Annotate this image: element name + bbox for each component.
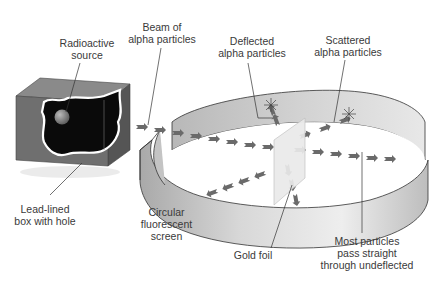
label-line: Gold foil — [218, 249, 288, 261]
label-line: Most particles — [312, 235, 422, 247]
label-line: alpha particles — [212, 47, 292, 59]
label-line: alpha particles — [122, 33, 202, 45]
label-undeflected: Most particles pass straight through und… — [312, 235, 422, 271]
label-screen: Circular fluorescent screen — [134, 206, 199, 242]
label-line: Circular — [134, 206, 199, 218]
flash-deflected-icon — [264, 98, 278, 112]
label-lead-box: Lead-lined box with hole — [10, 203, 80, 227]
label-scattered: Scattered alpha particles — [308, 34, 388, 58]
label-line: Beam of — [122, 21, 202, 33]
label-line: through undeflected — [312, 259, 422, 271]
label-line: Deflected — [212, 35, 292, 47]
label-line: Scattered — [308, 34, 388, 46]
label-line: Radioactive — [52, 37, 122, 49]
label-line: source — [52, 49, 122, 61]
label-line: box with hole — [10, 215, 80, 227]
label-line: pass straight — [312, 247, 422, 259]
label-line: Lead-lined — [10, 203, 80, 215]
label-line: fluorescent — [134, 218, 199, 230]
label-gold-foil: Gold foil — [218, 249, 288, 261]
label-line: screen — [134, 230, 199, 242]
label-deflected: Deflected alpha particles — [212, 35, 292, 59]
label-line: alpha particles — [308, 46, 388, 58]
label-radioactive-source: Radioactive source — [52, 37, 122, 61]
lead-lined-box — [16, 78, 130, 178]
flash-scattered-icon — [342, 107, 356, 121]
label-beam: Beam of alpha particles — [122, 21, 202, 45]
radioactive-source — [55, 110, 70, 125]
